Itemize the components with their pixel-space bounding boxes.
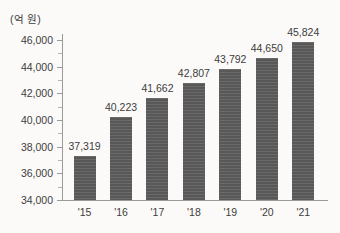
bar-group: 40,223 — [110, 40, 132, 200]
bar-value-label: 44,650 — [251, 42, 283, 54]
bar-value-label: 41,662 — [141, 82, 173, 94]
bar — [292, 42, 314, 200]
bar-group: 37,319 — [74, 40, 96, 200]
y-axis-tick-minor — [58, 160, 62, 161]
y-axis-tick-major — [57, 93, 62, 94]
y-axis-tick-minor — [58, 80, 62, 81]
y-axis-tick-major — [57, 200, 62, 201]
bar — [183, 83, 205, 200]
bar-group: 41,662 — [146, 40, 168, 200]
bar — [146, 98, 168, 200]
x-axis-line — [62, 200, 328, 201]
bar — [74, 156, 96, 200]
x-axis-tick-label: '15 — [78, 206, 92, 218]
y-axis-tick-major — [57, 67, 62, 68]
y-axis-line — [62, 34, 63, 200]
y-axis-tick-label: 42,000 — [21, 87, 53, 99]
bar — [256, 58, 278, 200]
bar-group: 44,650 — [256, 40, 278, 200]
bar-group: 45,824 — [292, 40, 314, 200]
y-axis-tick-major — [57, 147, 62, 148]
y-axis-tick-major — [57, 173, 62, 174]
x-axis-tick-label: '18 — [187, 206, 201, 218]
bar-group: 43,792 — [219, 40, 241, 200]
bar-value-label: 37,319 — [69, 140, 101, 152]
y-axis-tick-minor — [58, 187, 62, 188]
x-axis-tick-label: '17 — [151, 206, 165, 218]
y-axis-tick-major — [57, 120, 62, 121]
y-axis-tick-major — [57, 40, 62, 41]
bar-chart: (억 원) 34,00036,00038,00040,00042,00044,0… — [0, 0, 340, 233]
x-axis-tick-label: '16 — [114, 206, 128, 218]
y-axis-tick-label: 46,000 — [21, 34, 53, 46]
x-axis-tick-label: '21 — [296, 206, 310, 218]
bar-value-label: 45,824 — [287, 26, 319, 38]
bar-value-label: 42,807 — [178, 67, 210, 79]
bar-value-label: 40,223 — [105, 101, 137, 113]
y-axis-tick-label: 38,000 — [21, 141, 53, 153]
y-axis-tick-minor — [58, 133, 62, 134]
bar — [219, 69, 241, 200]
y-axis-tick-minor — [58, 107, 62, 108]
y-axis-tick-label: 40,000 — [21, 114, 53, 126]
x-axis-tick-label: '19 — [224, 206, 238, 218]
bar — [110, 117, 132, 200]
y-axis-unit-label: (억 원) — [10, 11, 41, 26]
x-axis-tick-label: '20 — [260, 206, 274, 218]
bar-group: 42,807 — [183, 40, 205, 200]
y-axis-tick-label: 44,000 — [21, 61, 53, 73]
bar-value-label: 43,792 — [214, 53, 246, 65]
y-axis-tick-label: 36,000 — [21, 167, 53, 179]
y-axis-tick-minor — [58, 53, 62, 54]
y-axis-tick-label: 34,000 — [21, 194, 53, 206]
